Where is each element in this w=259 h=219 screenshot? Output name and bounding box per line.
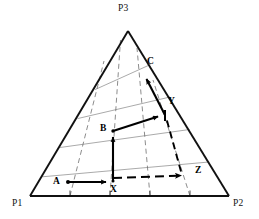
- point-label-x: X: [110, 184, 117, 194]
- route-segment-y-c: [147, 79, 166, 115]
- dashed-route-x-to-z: [113, 176, 181, 178]
- dashed-segment-x-z: [113, 176, 181, 178]
- point-label-z: Z: [195, 165, 201, 175]
- point-label-b: B: [100, 123, 106, 133]
- point-label-y: Y: [168, 96, 175, 106]
- solid-route: [68, 79, 165, 182]
- vertex-label-p3: P3: [118, 3, 128, 13]
- dashed-segment-flank: [166, 117, 181, 172]
- dashed-right-flank: [166, 117, 181, 172]
- point-label-a: A: [53, 176, 60, 186]
- vertex-label-p1: P1: [12, 198, 22, 208]
- vertex-label-p2: P2: [233, 198, 243, 208]
- tie-line-4: [95, 65, 151, 90]
- grid-tie-lines: [42, 65, 209, 177]
- data-point-dots: [66, 129, 115, 184]
- ternary-diagram-canvas: [0, 0, 259, 219]
- dashed-line-2: [110, 40, 121, 196]
- point-a-dot: [66, 180, 70, 184]
- triangle-edge-right: [128, 31, 229, 196]
- point-label-c: C: [147, 56, 154, 66]
- point-b-dot: [111, 129, 114, 132]
- tie-line-1: [42, 162, 209, 177]
- route-segment-b-y: [113, 117, 158, 132]
- ternary-diagram-figure: P1 P2 P3 A B C X Y Z: [0, 0, 259, 219]
- point-x-dot: [112, 180, 115, 183]
- tie-line-3: [78, 97, 171, 119]
